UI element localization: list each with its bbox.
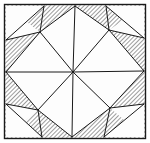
- figure-canvas: [0, 0, 150, 143]
- geometric-pattern-svg: [0, 0, 150, 143]
